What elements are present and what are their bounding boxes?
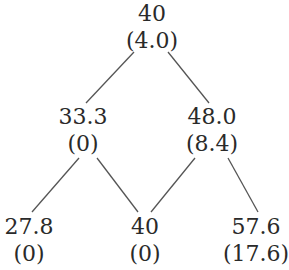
node-value: 33.3 — [59, 103, 108, 130]
node-value: 40 — [129, 213, 160, 240]
edge-down-to-middle — [97, 158, 138, 212]
edge-root-to-up — [168, 52, 209, 103]
node-option-value: (0) — [129, 240, 160, 267]
edge-up-to-middle — [151, 158, 195, 212]
node-value: 48.0 — [186, 103, 238, 130]
node-value: 40 — [126, 0, 178, 27]
edge-down-to-downdown — [32, 158, 79, 212]
node-down-down: 27.8 (0) — [5, 213, 54, 267]
edge-up-to-upup — [228, 158, 258, 212]
node-option-value: (0) — [59, 130, 108, 157]
node-down: 33.3 (0) — [59, 103, 108, 157]
node-option-value: (4.0) — [126, 27, 178, 54]
node-option-value: (8.4) — [186, 130, 238, 157]
node-value: 27.8 — [5, 213, 54, 240]
edge-root-to-down — [86, 52, 134, 103]
node-value: 57.6 — [223, 213, 289, 240]
node-middle: 40 (0) — [129, 213, 160, 267]
binomial-tree-diagram: 40 (4.0) 33.3 (0) 48.0 (8.4) 27.8 (0) 40… — [0, 0, 289, 270]
node-option-value: (0) — [5, 240, 54, 267]
node-up: 48.0 (8.4) — [186, 103, 238, 157]
node-up-up: 57.6 (17.6) — [223, 213, 289, 267]
node-option-value: (17.6) — [223, 240, 289, 267]
node-root: 40 (4.0) — [126, 0, 178, 54]
